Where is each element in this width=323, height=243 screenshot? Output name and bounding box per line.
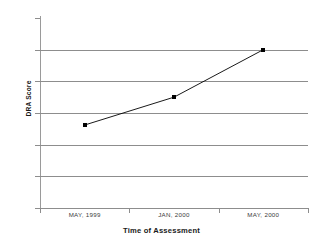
series-line xyxy=(40,18,308,208)
chart-figure: DRA Score 051015202530 MAY, 1999JAN, 200… xyxy=(0,0,323,243)
data-point-0 xyxy=(83,123,87,127)
data-point-2 xyxy=(261,48,265,52)
x-tick-label-1: JAN, 2000 xyxy=(129,211,219,219)
plot-area xyxy=(40,18,308,208)
x-tick-label-0: MAY, 1999 xyxy=(40,211,130,219)
x-axis-title: Time of Assessment xyxy=(0,226,323,235)
y-axis-title: DRA Score xyxy=(25,59,32,139)
x-tick-label-2: MAY, 2000 xyxy=(218,211,308,219)
data-point-1 xyxy=(172,95,176,99)
x-axis-line xyxy=(39,208,309,209)
